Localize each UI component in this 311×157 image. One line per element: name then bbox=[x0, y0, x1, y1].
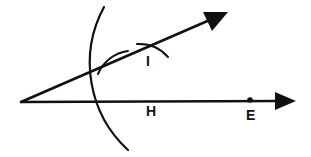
slanted-ray-line bbox=[21, 19, 212, 102]
point-label-I: I bbox=[146, 54, 150, 68]
main-compass-arc bbox=[90, 7, 128, 150]
geometry-diagram: H I E bbox=[0, 0, 311, 157]
point-label-E: E bbox=[246, 108, 255, 122]
point-E-dot bbox=[247, 97, 253, 103]
horizontal-ray-line bbox=[21, 101, 280, 102]
geometry-canvas bbox=[0, 0, 311, 157]
point-label-H: H bbox=[146, 104, 156, 118]
horizontal-ray-arrowhead bbox=[275, 92, 296, 110]
